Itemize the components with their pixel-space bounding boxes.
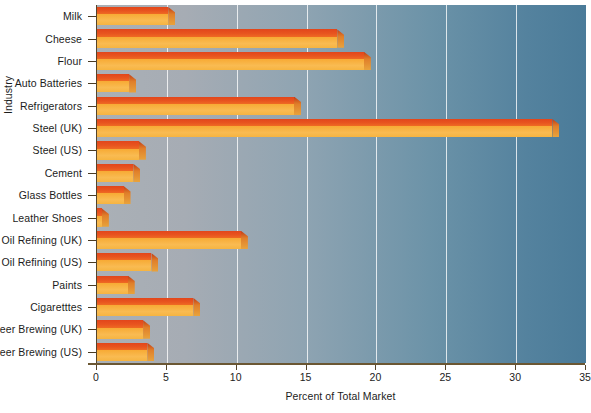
x-axis-tick	[236, 365, 237, 370]
y-axis-tick	[88, 128, 96, 129]
bar-side-face	[143, 320, 150, 338]
bar-front-face	[97, 126, 552, 137]
x-axis-tick-label: 30	[509, 371, 521, 383]
y-axis-category-labels: MilkCheeseFlourAuto BatteriesRefrigerato…	[0, 5, 88, 363]
x-axis-tick-label: 35	[579, 371, 591, 383]
y-axis-tick	[88, 285, 96, 286]
bar	[97, 119, 552, 137]
gridline	[516, 5, 517, 363]
bar-front-face	[97, 283, 128, 294]
bar-top-face	[97, 186, 124, 193]
bar-top-face	[97, 141, 139, 148]
bar-side-face	[337, 29, 344, 47]
x-axis-tick-label: 15	[300, 371, 312, 383]
bar	[97, 29, 337, 47]
y-axis-tick	[88, 240, 96, 241]
y-axis-tick	[88, 218, 96, 219]
bar	[97, 208, 102, 226]
y-axis-tick	[88, 16, 96, 17]
bar-top-face	[97, 276, 128, 283]
bar	[97, 74, 129, 92]
bar-front-face	[97, 14, 168, 25]
x-axis-tick-marks	[96, 365, 585, 370]
bar-top-face	[97, 29, 337, 36]
bar	[97, 141, 139, 159]
y-axis-tick	[88, 39, 96, 40]
bar-top-face	[97, 74, 129, 81]
bar-top-face	[97, 231, 241, 238]
bar-front-face	[97, 37, 337, 48]
bar-side-face	[128, 276, 135, 294]
bar-top-face	[97, 320, 143, 327]
bar-front-face	[97, 149, 139, 160]
bar	[97, 186, 124, 204]
bar-side-face	[124, 186, 131, 204]
y-axis-tick	[88, 83, 96, 84]
bar-side-face	[241, 231, 248, 249]
bar-front-face	[97, 81, 129, 92]
y-axis-tick-marks	[88, 5, 96, 363]
x-axis-tick	[585, 365, 586, 370]
bar-front-face	[97, 238, 241, 249]
bar-side-face	[552, 119, 559, 137]
y-axis-category-label: Steel (US)	[0, 139, 88, 161]
x-axis-tick-label: 20	[370, 371, 382, 383]
bar-top-face	[97, 7, 168, 14]
gridline	[376, 5, 377, 363]
bar-side-face	[139, 141, 146, 159]
x-axis-tick-label: 10	[230, 371, 242, 383]
bar-side-face	[133, 164, 140, 182]
y-axis-category-label: Flour	[0, 50, 88, 72]
y-axis-category-label: Cement	[0, 162, 88, 184]
bar	[97, 97, 294, 115]
y-axis-tick	[88, 61, 96, 62]
bar-front-face	[97, 59, 364, 70]
bar-side-face	[364, 52, 371, 70]
bar	[97, 320, 143, 338]
bar	[97, 164, 133, 182]
x-axis-title: Percent of Total Market	[96, 390, 585, 402]
y-axis-category-label: Leather Shoes	[0, 206, 88, 228]
x-axis-tick-label: 25	[439, 371, 451, 383]
bar-side-face	[168, 7, 175, 25]
bar	[97, 276, 128, 294]
y-axis-category-label: Beer Brewing (US)	[0, 341, 88, 363]
bar	[97, 253, 151, 271]
bar-side-face	[193, 298, 200, 316]
y-axis-tick	[88, 352, 96, 353]
bar	[97, 7, 168, 25]
y-axis-tick	[88, 173, 96, 174]
y-axis-tick	[88, 106, 96, 107]
x-axis-tick	[375, 365, 376, 370]
bar	[97, 343, 147, 361]
plot-area	[96, 5, 586, 363]
y-axis-category-label: Cigaretttes	[0, 296, 88, 318]
bar	[97, 231, 241, 249]
bar	[97, 298, 193, 316]
bar-side-face	[129, 74, 136, 92]
y-axis-tick	[88, 150, 96, 151]
x-axis-tick	[166, 365, 167, 370]
bar-top-face	[97, 298, 193, 305]
bar-front-face	[97, 328, 143, 339]
y-axis-category-label: Steel (UK)	[0, 117, 88, 139]
bar-side-face	[102, 208, 109, 226]
bar-top-face	[97, 164, 133, 171]
y-axis-tick	[88, 195, 96, 196]
bar-front-face	[97, 171, 133, 182]
y-axis-category-label: Refrigerators	[0, 95, 88, 117]
bar-top-face	[97, 253, 151, 260]
gridline	[446, 5, 447, 363]
y-axis-category-label: Oil Refining (US)	[0, 251, 88, 273]
bar-top-face	[97, 52, 364, 59]
x-axis-tick-labels: 05101520253035	[0, 371, 585, 385]
bar-top-face	[97, 97, 294, 104]
bar-top-face	[97, 343, 147, 350]
y-axis-tick	[88, 329, 96, 330]
y-axis-tick	[88, 262, 96, 263]
bar-side-face	[151, 253, 158, 271]
x-axis-tick-label: 0	[93, 371, 99, 383]
x-axis-tick	[515, 365, 516, 370]
y-axis-category-label: Glass Bottles	[0, 184, 88, 206]
